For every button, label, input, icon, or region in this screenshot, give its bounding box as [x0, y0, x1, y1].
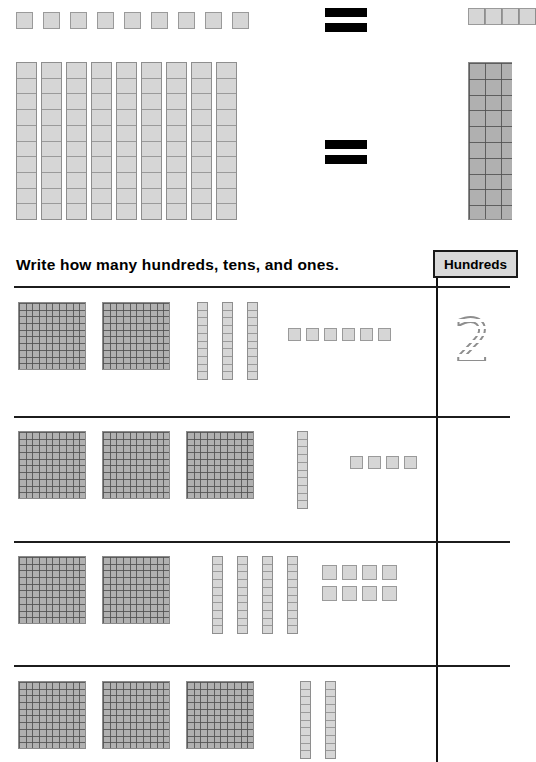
- tens-rod: [237, 556, 248, 634]
- ones-cube: [378, 328, 391, 341]
- tens-rod: [325, 681, 336, 759]
- hundreds-group: [18, 431, 270, 499]
- ones-cube: [368, 456, 381, 469]
- tens-group: [197, 302, 272, 380]
- tens-rod: [287, 556, 298, 634]
- hundreds-group: [18, 556, 186, 624]
- ones-cube: [360, 328, 373, 341]
- ones-cube: [362, 586, 377, 601]
- hundreds-flat: [18, 681, 86, 749]
- ones-cube: [16, 12, 33, 29]
- table-row: [0, 418, 436, 541]
- ones-cube: [70, 12, 87, 29]
- hundreds-flat: [102, 681, 170, 749]
- ones-cube: [232, 12, 249, 29]
- worksheet: Write how many hundreds, tens, and ones.…: [0, 248, 510, 762]
- tens-rod: [141, 62, 162, 220]
- hundreds-flat: [18, 431, 86, 499]
- hundreds-flat: [102, 302, 170, 370]
- tens-rod: [191, 62, 212, 220]
- demo-ones-group: [16, 12, 259, 29]
- ones-cube: [124, 12, 141, 29]
- ones-cube: [342, 328, 355, 341]
- ones-group: [322, 565, 402, 607]
- tens-rod: [297, 431, 308, 509]
- hundreds-group: [18, 302, 186, 370]
- ones-cube: [205, 12, 222, 29]
- table-row: [0, 667, 436, 762]
- answer-cell[interactable]: [440, 667, 510, 762]
- tens-rod: [41, 62, 62, 220]
- equals-sign-icon: [325, 140, 367, 164]
- hundreds-flat: [468, 62, 512, 220]
- tens-group: [300, 681, 350, 759]
- tens-group: [212, 556, 312, 634]
- ones-cube: [322, 586, 337, 601]
- traced-answer-digit: 2: [454, 312, 491, 370]
- ones-cube: [151, 12, 168, 29]
- page-title: Write how many hundreds, tens, and ones.: [16, 256, 339, 274]
- ones-cube: [502, 8, 519, 25]
- hundreds-flat: [186, 431, 254, 499]
- tens-group: [297, 431, 322, 509]
- ones-cube: [322, 565, 337, 580]
- ones-cube: [288, 328, 301, 341]
- tens-rod: [216, 62, 237, 220]
- hundreds-flat: [18, 302, 86, 370]
- tens-rod: [16, 62, 37, 220]
- hundreds-flat: [186, 681, 254, 749]
- ones-cube: [178, 12, 195, 29]
- equals-sign-icon: [325, 8, 367, 32]
- tens-rod: [66, 62, 87, 220]
- table-row: [0, 288, 436, 416]
- ones-cube: [350, 456, 363, 469]
- demo-hundred-cropped: [468, 62, 512, 220]
- ones-cube: [485, 8, 502, 25]
- tens-rod: [222, 302, 233, 380]
- ones-cube: [97, 12, 114, 29]
- ones-cube: [386, 456, 399, 469]
- ones-group: [288, 328, 432, 347]
- tens-rod: [262, 556, 273, 634]
- ones-cube: [362, 565, 377, 580]
- answer-cell[interactable]: [440, 543, 510, 665]
- hundreds-flat: [18, 556, 86, 624]
- ones-cube: [519, 8, 536, 25]
- ones-cube: [306, 328, 319, 341]
- ones-cube: [43, 12, 60, 29]
- tens-rod: [197, 302, 208, 380]
- ones-cube: [382, 586, 397, 601]
- ones-cube: [404, 456, 417, 469]
- ones-cube: [324, 328, 337, 341]
- tens-rod: [247, 302, 258, 380]
- tens-rod: [300, 681, 311, 759]
- hundreds-flat: [102, 556, 170, 624]
- hundreds-group: [18, 681, 270, 749]
- tens-rod: [166, 62, 187, 220]
- demonstration-area: [0, 0, 510, 240]
- ones-cube: [342, 565, 357, 580]
- ones-cube: [342, 586, 357, 601]
- column-header-hundreds: Hundreds: [433, 250, 518, 278]
- answer-cell[interactable]: 2: [440, 288, 510, 416]
- ones-cube: [468, 8, 485, 25]
- demo-tens-group: [16, 62, 241, 220]
- demo-result-cropped: [468, 8, 536, 25]
- answer-cell[interactable]: [440, 418, 510, 541]
- column-divider: [436, 278, 438, 762]
- ones-cube: [382, 565, 397, 580]
- hundreds-flat: [102, 431, 170, 499]
- tens-rod: [116, 62, 137, 220]
- tens-rod: [212, 556, 223, 634]
- tens-rod: [91, 62, 112, 220]
- table-row: [0, 543, 436, 665]
